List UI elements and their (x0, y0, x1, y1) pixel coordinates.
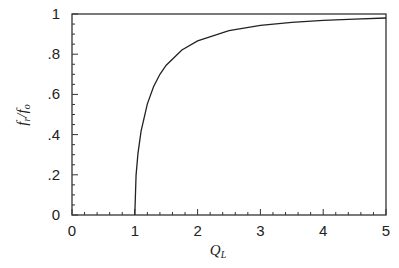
plot-frame (72, 14, 386, 215)
x-tick-label: 1 (131, 222, 139, 239)
axis-ticks (72, 14, 386, 215)
x-tick-labels: 012345 (68, 222, 390, 239)
x-tick-label: 2 (193, 222, 201, 239)
y-tick-label: .2 (47, 166, 60, 183)
y-axis-label: fr/fo (14, 104, 32, 125)
y-tick-label: .8 (47, 45, 60, 62)
x-tick-label: 0 (68, 222, 76, 239)
y-tick-label: .6 (47, 85, 60, 102)
x-tick-label: 3 (256, 222, 264, 239)
y-tick-label: .4 (47, 126, 60, 143)
y-tick-label: 1 (52, 5, 60, 22)
y-tick-label: 0 (52, 206, 60, 223)
y-tick-labels: 0.2.4.6.81 (47, 5, 60, 223)
x-axis-label: QL (210, 242, 227, 260)
x-tick-label: 5 (382, 222, 390, 239)
x-tick-label: 4 (319, 222, 327, 239)
data-line (135, 18, 386, 215)
chart: 012345 0.2.4.6.81 QL fr/fo (0, 0, 399, 268)
